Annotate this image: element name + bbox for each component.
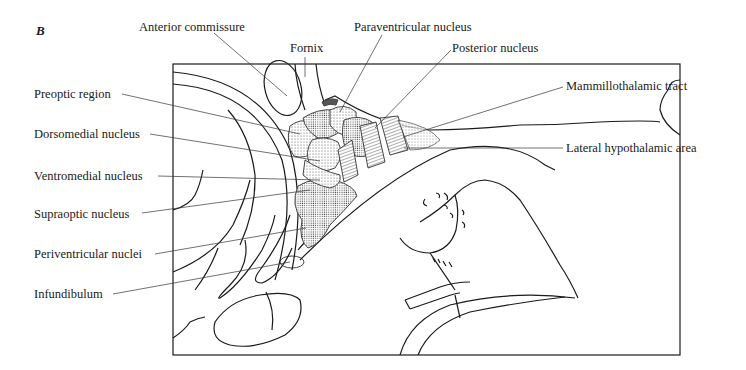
hypothalamus-illustration [0,0,746,370]
anterior-commissure-shape [258,56,307,119]
supraoptic-nucleus-shape [295,179,357,248]
infundibulum-shape [280,256,304,268]
frame-border [173,64,680,355]
